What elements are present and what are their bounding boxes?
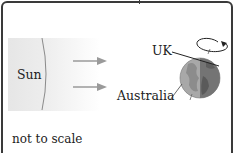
uk-label: UK (152, 45, 172, 58)
rotation-arrow-icon (197, 38, 227, 51)
light-ray-arrow-icon (73, 83, 107, 91)
not-to-scale-note: not to scale (12, 133, 82, 145)
australia-label: Australia (117, 90, 174, 103)
sun-label: Sun (17, 69, 42, 82)
earth-globe-icon (180, 55, 225, 101)
light-ray-arrow-icon (73, 57, 107, 65)
sun-edge-icon (42, 38, 46, 110)
